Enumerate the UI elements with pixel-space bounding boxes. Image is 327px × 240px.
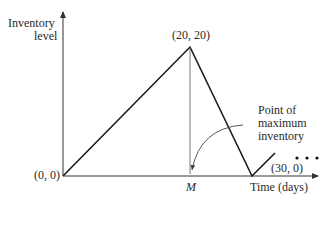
origin-point-label: (0, 0): [34, 169, 60, 182]
y-axis-label-line2: level: [34, 30, 57, 43]
annotation-text-line3: inventory: [258, 130, 304, 143]
x-axis-label: Time (days): [250, 181, 308, 194]
continuation-dot: [295, 156, 298, 159]
end-point-label: (30, 0): [271, 162, 303, 175]
continuation-dot: [305, 156, 308, 159]
m-label: M: [186, 181, 196, 194]
peak-point-label: (20, 20): [172, 29, 210, 42]
annotation-arrow: [192, 125, 243, 170]
continuation-dot: [315, 156, 318, 159]
inventory-line: [63, 47, 275, 176]
